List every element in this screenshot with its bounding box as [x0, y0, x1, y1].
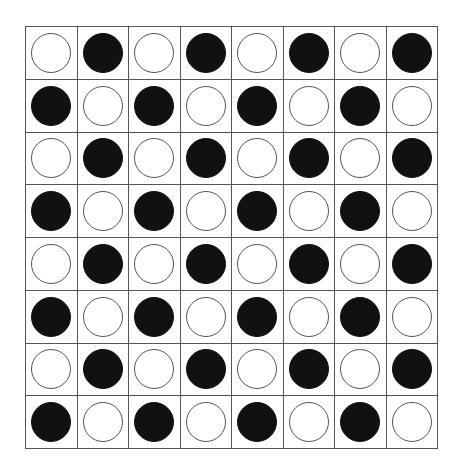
black-piece-icon[interactable]: [186, 244, 226, 284]
black-piece-icon[interactable]: [392, 244, 432, 284]
board-cell[interactable]: [231, 26, 283, 79]
black-piece-icon[interactable]: [186, 33, 226, 73]
white-piece-icon[interactable]: [186, 191, 226, 231]
white-piece-icon[interactable]: [289, 86, 329, 126]
black-piece-icon[interactable]: [392, 349, 432, 389]
board-cell[interactable]: [128, 26, 180, 79]
board-cell[interactable]: [128, 79, 180, 132]
board-cell[interactable]: [386, 343, 438, 396]
black-piece-icon[interactable]: [83, 349, 123, 389]
white-piece-icon[interactable]: [134, 33, 174, 73]
black-piece-icon[interactable]: [186, 349, 226, 389]
board-cell[interactable]: [231, 237, 283, 290]
board-cell[interactable]: [25, 237, 77, 290]
white-piece-icon[interactable]: [392, 86, 432, 126]
board-cell[interactable]: [283, 395, 335, 448]
black-piece-icon[interactable]: [83, 33, 123, 73]
board-cell[interactable]: [334, 184, 386, 237]
board-cell[interactable]: [77, 395, 129, 448]
white-piece-icon[interactable]: [31, 349, 71, 389]
board-cell[interactable]: [231, 290, 283, 343]
black-piece-icon[interactable]: [340, 297, 380, 337]
board-cell[interactable]: [334, 395, 386, 448]
board-cell[interactable]: [180, 395, 232, 448]
black-piece-icon[interactable]: [134, 402, 174, 442]
board-cell[interactable]: [25, 79, 77, 132]
board-cell[interactable]: [180, 132, 232, 185]
white-piece-icon[interactable]: [237, 244, 277, 284]
board-cell[interactable]: [334, 79, 386, 132]
white-piece-icon[interactable]: [31, 33, 71, 73]
board-cell[interactable]: [77, 26, 129, 79]
board-cell[interactable]: [231, 343, 283, 396]
board-cell[interactable]: [77, 290, 129, 343]
white-piece-icon[interactable]: [83, 297, 123, 337]
black-piece-icon[interactable]: [289, 138, 329, 178]
white-piece-icon[interactable]: [289, 191, 329, 231]
black-piece-icon[interactable]: [134, 297, 174, 337]
board-cell[interactable]: [25, 343, 77, 396]
black-piece-icon[interactable]: [31, 86, 71, 126]
board-cell[interactable]: [25, 290, 77, 343]
board-cell[interactable]: [386, 79, 438, 132]
white-piece-icon[interactable]: [83, 191, 123, 231]
white-piece-icon[interactable]: [31, 138, 71, 178]
board-cell[interactable]: [180, 343, 232, 396]
board-cell[interactable]: [283, 79, 335, 132]
white-piece-icon[interactable]: [340, 244, 380, 284]
black-piece-icon[interactable]: [289, 349, 329, 389]
white-piece-icon[interactable]: [392, 191, 432, 231]
black-piece-icon[interactable]: [340, 86, 380, 126]
board-cell[interactable]: [283, 26, 335, 79]
white-piece-icon[interactable]: [134, 244, 174, 284]
board-cell[interactable]: [77, 132, 129, 185]
board-cell[interactable]: [386, 290, 438, 343]
black-piece-icon[interactable]: [237, 191, 277, 231]
board-cell[interactable]: [386, 237, 438, 290]
black-piece-icon[interactable]: [83, 138, 123, 178]
board-cell[interactable]: [128, 395, 180, 448]
white-piece-icon[interactable]: [186, 297, 226, 337]
black-piece-icon[interactable]: [31, 297, 71, 337]
white-piece-icon[interactable]: [289, 297, 329, 337]
white-piece-icon[interactable]: [340, 349, 380, 389]
black-piece-icon[interactable]: [186, 138, 226, 178]
board-cell[interactable]: [231, 184, 283, 237]
black-piece-icon[interactable]: [340, 191, 380, 231]
board-cell[interactable]: [128, 290, 180, 343]
white-piece-icon[interactable]: [134, 138, 174, 178]
board-cell[interactable]: [25, 26, 77, 79]
black-piece-icon[interactable]: [31, 191, 71, 231]
board-cell[interactable]: [77, 79, 129, 132]
board-cell[interactable]: [128, 132, 180, 185]
board-cell[interactable]: [334, 343, 386, 396]
white-piece-icon[interactable]: [134, 349, 174, 389]
black-piece-icon[interactable]: [289, 244, 329, 284]
board-cell[interactable]: [231, 395, 283, 448]
board-cell[interactable]: [231, 132, 283, 185]
black-piece-icon[interactable]: [31, 402, 71, 442]
board-cell[interactable]: [283, 290, 335, 343]
board-cell[interactable]: [180, 237, 232, 290]
board-cell[interactable]: [283, 132, 335, 185]
board-cell[interactable]: [334, 237, 386, 290]
black-piece-icon[interactable]: [134, 191, 174, 231]
white-piece-icon[interactable]: [237, 138, 277, 178]
white-piece-icon[interactable]: [392, 402, 432, 442]
white-piece-icon[interactable]: [83, 402, 123, 442]
white-piece-icon[interactable]: [340, 138, 380, 178]
board-cell[interactable]: [77, 237, 129, 290]
white-piece-icon[interactable]: [392, 297, 432, 337]
white-piece-icon[interactable]: [237, 349, 277, 389]
board-cell[interactable]: [180, 290, 232, 343]
white-piece-icon[interactable]: [289, 402, 329, 442]
black-piece-icon[interactable]: [237, 297, 277, 337]
board-cell[interactable]: [25, 132, 77, 185]
board-cell[interactable]: [180, 26, 232, 79]
board-cell[interactable]: [283, 237, 335, 290]
black-piece-icon[interactable]: [237, 402, 277, 442]
white-piece-icon[interactable]: [340, 33, 380, 73]
board-cell[interactable]: [386, 132, 438, 185]
black-piece-icon[interactable]: [83, 244, 123, 284]
black-piece-icon[interactable]: [134, 86, 174, 126]
